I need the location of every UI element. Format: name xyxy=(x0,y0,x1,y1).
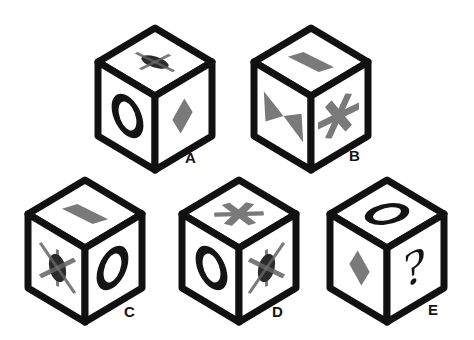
cube-a[interactable] xyxy=(96,26,218,176)
cube-label-d: D xyxy=(272,304,283,319)
cube-a-drawing xyxy=(96,26,218,176)
svg-text:?: ? xyxy=(403,234,426,300)
cube-label-c: C xyxy=(124,304,135,319)
cube-label-e: E xyxy=(428,302,438,317)
cube-e-right-symbol-question-mark: ? xyxy=(403,234,426,300)
cube-d-drawing xyxy=(180,178,302,328)
cube-label-a: A xyxy=(185,150,196,165)
cube-d[interactable] xyxy=(180,178,302,328)
puzzle-stage: A B xyxy=(0,0,474,340)
cube-label-b: B xyxy=(349,148,360,163)
